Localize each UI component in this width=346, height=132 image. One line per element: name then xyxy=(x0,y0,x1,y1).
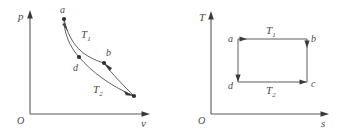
state-label-d: d xyxy=(73,62,79,73)
p-axis-label: p xyxy=(17,10,24,22)
t-axis-label: T xyxy=(199,11,206,23)
state-point-c-dot xyxy=(132,94,136,98)
ts-state-label-a: a xyxy=(228,33,233,44)
pv-diagram-svg: p O v a b d xyxy=(0,0,173,132)
t2-direction-arrow-icon xyxy=(300,79,308,84)
pv-origin-label: O xyxy=(17,115,24,126)
d-a-direction-arrow-icon xyxy=(235,75,240,83)
adiabat-a-d-curve xyxy=(64,19,79,57)
t-axis-arrow-icon xyxy=(208,11,214,20)
ts-state-label-d: d xyxy=(228,80,234,91)
ts-state-label-b: b xyxy=(311,33,316,44)
state-point-b-dot xyxy=(102,61,106,65)
ts-origin-label: O xyxy=(198,115,205,126)
ts-diagram-svg: T O s a b c d T1 T2 xyxy=(173,0,346,132)
state-label-b: b xyxy=(106,47,111,58)
s-axis-arrow-icon xyxy=(321,111,330,117)
ts-isotherm-t2-label: T2 xyxy=(266,84,276,99)
state-point-d-dot xyxy=(77,55,81,59)
t1-direction-arrow-icon xyxy=(240,36,248,41)
ts-isotherm-t1-label: T1 xyxy=(266,24,276,39)
isotherm-t2-curve xyxy=(79,57,134,96)
b-c-direction-arrow-icon xyxy=(304,41,309,49)
state-point-a-dot xyxy=(62,17,66,21)
ts-state-label-c: c xyxy=(311,78,316,89)
p-axis-arrow-icon xyxy=(27,10,33,19)
isotherm-t1-curve xyxy=(64,19,104,63)
ts-diagram-panel: T O s a b c d T1 T2 xyxy=(173,0,346,132)
state-label-a: a xyxy=(60,4,65,15)
thermodynamic-cycle-figure: p O v a b d xyxy=(0,0,346,132)
v-axis-label: v xyxy=(141,117,146,129)
s-axis-label: s xyxy=(321,117,325,129)
v-axis-arrow-icon xyxy=(142,111,151,117)
pv-isotherm-t1-label: T1 xyxy=(81,28,91,43)
pv-isotherm-t2-label: T2 xyxy=(93,83,103,98)
pv-diagram-panel: p O v a b d xyxy=(0,0,173,132)
